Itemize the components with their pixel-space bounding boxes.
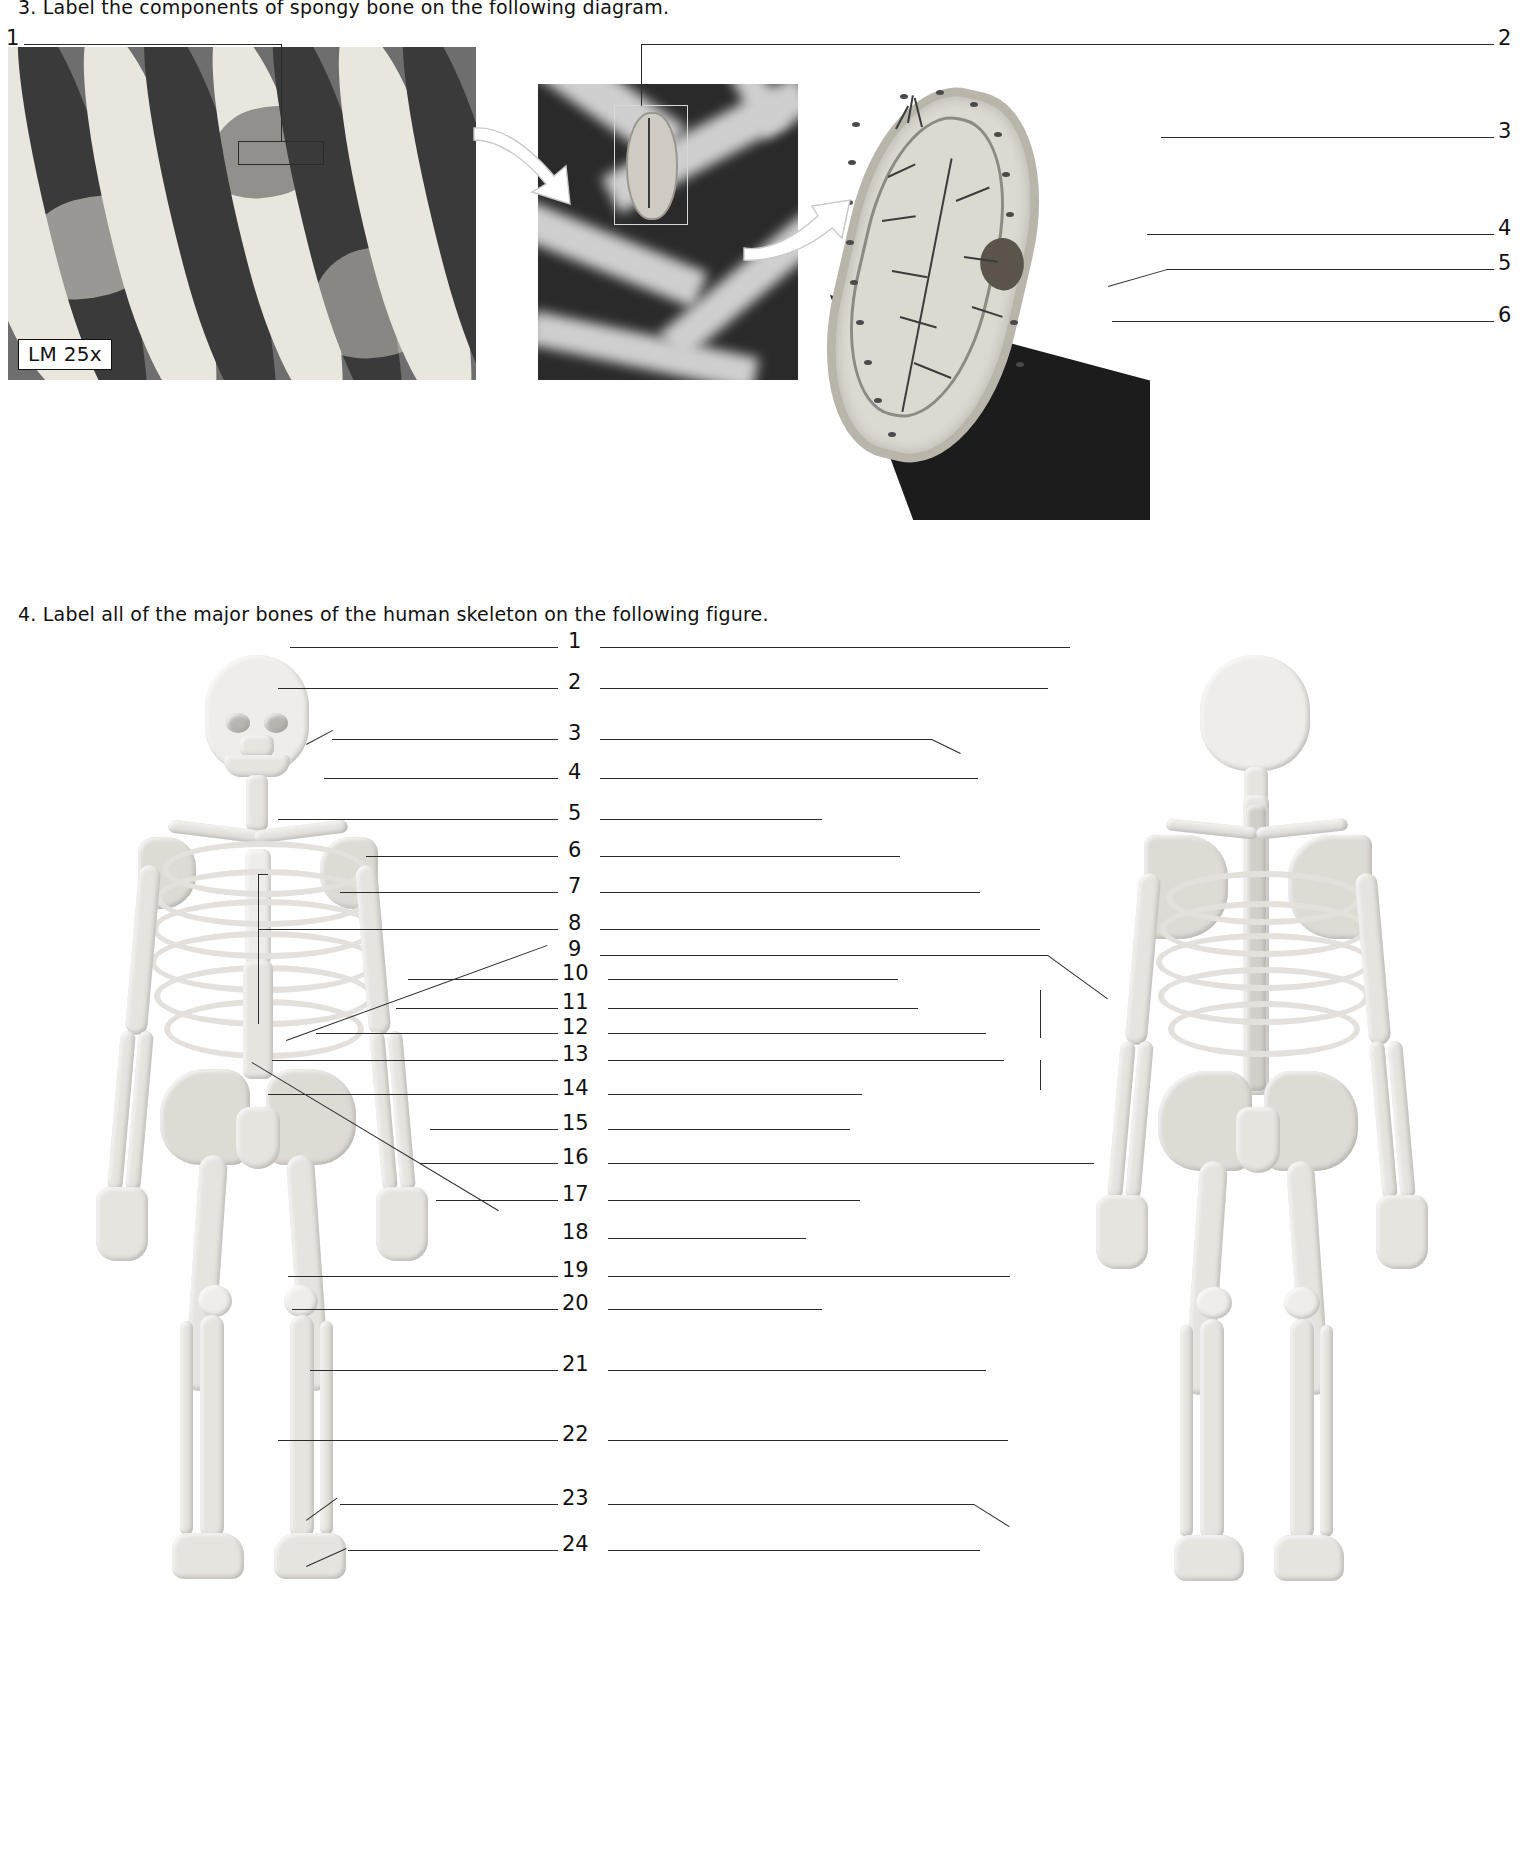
q4-label-10-leader-right	[608, 979, 898, 980]
q4-label-19-number[interactable]: 19	[562, 1260, 589, 1281]
q4-label-1-leader-left	[290, 647, 558, 648]
q4-label-21-leader-right	[608, 1370, 986, 1371]
q4-label-20-number[interactable]: 20	[562, 1293, 589, 1314]
q4-label-24-leader-left	[348, 1550, 558, 1551]
q4-label-3-leader-right	[600, 739, 932, 740]
q3-label-1-leader-v	[281, 44, 282, 142]
q4-label-9-number[interactable]: 9	[568, 939, 581, 960]
q4-label-12-number[interactable]: 12	[562, 1017, 589, 1038]
q4-label-4-number[interactable]: 4	[568, 762, 581, 783]
q4-label-2-number[interactable]: 2	[568, 672, 581, 693]
q4-label-17-number[interactable]: 17	[562, 1184, 589, 1205]
q4-label-2-leader-left	[278, 688, 558, 689]
q4-label-18-number[interactable]: 18	[562, 1222, 589, 1243]
q4-label-23-number[interactable]: 23	[562, 1488, 589, 1509]
q4-label-21-number[interactable]: 21	[562, 1354, 589, 1375]
q4-label-13-number[interactable]: 13	[562, 1044, 589, 1065]
q4-label-8-number[interactable]: 8	[568, 913, 581, 934]
q4-label-15-number[interactable]: 15	[562, 1113, 589, 1134]
q4-label-15-leader-left	[430, 1129, 558, 1130]
q4-label-20-leader-left	[292, 1309, 558, 1310]
q4-label-11-leader-right	[608, 1008, 918, 1009]
q4-label-8-leader-right	[600, 929, 1040, 930]
q4-label-14-number[interactable]: 14	[562, 1078, 589, 1099]
q4-label-13-leader-left	[272, 1060, 558, 1061]
q4-label-12-leader-right	[608, 1033, 986, 1034]
question-4-text: 4. Label all of the major bones of the h…	[18, 603, 769, 625]
arrow-sem-to-trabecula	[742, 190, 862, 266]
q3-label-6-leader	[1112, 321, 1494, 322]
q3-label-5-number[interactable]: 5	[1498, 253, 1511, 274]
q4-label-3-leader-diag-right	[932, 739, 961, 754]
q4-label-4-leader-left	[324, 778, 558, 779]
q4-label-1-leader-right	[600, 647, 1070, 648]
q4-label-12-leader-left	[316, 1033, 558, 1034]
q4-label-13-leader-right	[608, 1060, 1004, 1061]
q4-label-13-bracket	[1040, 1060, 1041, 1090]
q4-label-20-leader-right	[608, 1309, 822, 1310]
q4-label-22-leader-left	[278, 1440, 558, 1441]
q3-label-2-leader-v	[641, 44, 642, 106]
q3-label-5-leader	[1166, 269, 1494, 270]
q4-label-7-leader-right	[600, 892, 980, 893]
q3-label-1-box-right	[323, 141, 324, 165]
q4-label-4-leader-right	[600, 778, 978, 779]
q4-label-8-bracket-left	[258, 874, 259, 1024]
trabecula-osteocyte-diagram	[830, 80, 1160, 520]
q4-label-23-leader-diag-right	[973, 1504, 1009, 1527]
q4-label-16-leader-left	[420, 1163, 558, 1164]
q4-label-11-leader-left	[396, 1008, 558, 1009]
q4-label-1-number[interactable]: 1	[568, 631, 581, 652]
q3-label-4-leader	[1147, 234, 1494, 235]
q4-label-8-bracket-right	[1040, 990, 1041, 1038]
q4-label-18-leader-right	[608, 1238, 806, 1239]
q4-label-16-number[interactable]: 16	[562, 1147, 589, 1168]
q3-label-6-number[interactable]: 6	[1498, 305, 1511, 326]
q3-label-1-box-left	[238, 141, 239, 165]
q4-label-10-leader-left	[408, 979, 558, 980]
q4-label-10-number[interactable]: 10	[562, 963, 589, 984]
q4-label-22-number[interactable]: 22	[562, 1424, 589, 1445]
q4-label-7-leader-left	[340, 892, 558, 893]
q4-label-6-number[interactable]: 6	[568, 840, 581, 861]
q4-label-7-number[interactable]: 7	[568, 876, 581, 897]
skeleton-anterior-view	[40, 655, 460, 1858]
q4-label-6-leader-right	[600, 856, 900, 857]
q4-label-8-leader-left	[258, 929, 558, 930]
q4-label-2-leader-right	[600, 688, 1048, 689]
q4-label-24-leader-right	[608, 1550, 980, 1551]
q4-label-14-leader-left	[268, 1094, 558, 1095]
q3-label-1-box-bottom	[238, 164, 324, 165]
q4-label-6-leader-left	[366, 856, 558, 857]
question-3-text: 3. Label the components of spongy bone o…	[18, 0, 669, 18]
q4-label-19-leader-right	[608, 1276, 1010, 1277]
inset-trabecula-shape	[626, 112, 678, 220]
q4-label-9-leader-right	[600, 955, 1048, 956]
q4-label-17-leader-left	[436, 1200, 558, 1201]
arrow-micrograph-to-sem	[470, 120, 590, 210]
q3-label-2-leader-h	[641, 44, 1494, 45]
q4-label-8-bracket-top	[258, 874, 268, 875]
q3-label-4-number[interactable]: 4	[1498, 218, 1511, 239]
q4-label-14-leader-right	[608, 1094, 862, 1095]
q3-label-1-box-top	[238, 141, 324, 142]
q4-label-11-number[interactable]: 11	[562, 992, 589, 1013]
q4-label-3-number[interactable]: 3	[568, 723, 581, 744]
q3-label-3-number[interactable]: 3	[1498, 121, 1511, 142]
q3-label-1-number[interactable]: 1	[6, 28, 19, 49]
q3-label-1-leader-h	[24, 44, 282, 45]
q4-label-3-leader-left	[332, 739, 558, 740]
q4-label-15-leader-right	[608, 1129, 850, 1130]
q4-label-17-leader-right	[608, 1200, 860, 1201]
q4-label-23-leader-left	[340, 1504, 558, 1505]
spongy-bone-micrograph: LM 25x	[8, 47, 476, 380]
q4-label-24-number[interactable]: 24	[562, 1534, 589, 1555]
q4-label-23-leader-right	[608, 1504, 974, 1505]
q4-label-5-number[interactable]: 5	[568, 803, 581, 824]
skeleton-posterior-view	[1040, 655, 1460, 1858]
q4-label-21-leader-left	[310, 1370, 558, 1371]
q3-label-2-number[interactable]: 2	[1498, 28, 1511, 49]
micrograph-magnification-badge: LM 25x	[18, 339, 112, 370]
inset-canal-line	[648, 118, 650, 208]
q4-label-5-leader-left	[278, 819, 558, 820]
